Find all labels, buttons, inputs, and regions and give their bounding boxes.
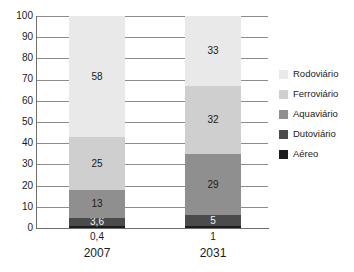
legend-item-aquaviario: Aquaviário <box>279 106 354 122</box>
bar-2031-segment-dutoviario: 5 <box>185 215 241 226</box>
bar-2007-label-dutoviario: 3,6 <box>90 217 104 227</box>
y-tick-20: 20 <box>3 181 33 191</box>
legend-label-rodoviario: Rodoviário <box>293 69 338 79</box>
plot-area: 3,6 13 25 58 5 29 <box>36 16 268 228</box>
bar-2007-segment-aquaviario: 13 <box>69 190 125 218</box>
x-category-label-2031: 2031 <box>178 247 248 260</box>
bar-2031-label-dutoviario: 5 <box>210 216 216 226</box>
x-category-label-2007: 2007 <box>62 247 132 260</box>
bar-2031: 5 29 32 33 <box>185 16 241 228</box>
stacked-bar-chart: 100 90 80 70 60 50 40 30 20 10 0 3,6 <box>0 0 354 272</box>
bar-2031-label-aquaviario: 29 <box>207 180 218 190</box>
y-tick-10: 10 <box>3 202 33 212</box>
y-tick-70: 70 <box>3 74 33 84</box>
legend-swatch-icon-ferroviario <box>279 90 288 99</box>
legend-swatch-icon-aquaviario <box>279 110 288 119</box>
bar-2007-segment-ferroviario: 25 <box>69 137 125 190</box>
bar-2007-segment-rodoviario: 58 <box>69 16 125 137</box>
legend-item-dutoviario: Dutoviário <box>279 126 354 142</box>
legend-swatch-icon-aereo <box>279 150 288 159</box>
legend-swatch-icon-rodoviario <box>279 70 288 79</box>
y-tick-60: 60 <box>3 96 33 106</box>
y-tick-0: 0 <box>3 223 33 233</box>
legend-item-rodoviario: Rodoviário <box>279 66 354 82</box>
legend-label-dutoviario: Dutoviário <box>293 129 336 139</box>
bar-2007-label-aereo: 0,4 <box>69 231 125 242</box>
bar-2031-label-aereo: 1 <box>185 231 241 242</box>
legend: Rodoviário Ferroviário Aquaviário Dutovi… <box>279 66 354 166</box>
y-tick-40: 40 <box>3 138 33 148</box>
legend-swatch-icon-dutoviario <box>279 130 288 139</box>
legend-label-aereo: Aéreo <box>293 149 318 159</box>
bar-2031-segment-rodoviario: 33 <box>185 16 241 86</box>
y-tick-80: 80 <box>3 53 33 63</box>
bar-2031-label-rodoviario: 33 <box>207 46 218 56</box>
y-tick-50: 50 <box>3 117 33 127</box>
legend-label-ferroviario: Ferroviário <box>293 89 338 99</box>
y-tick-90: 90 <box>3 32 33 42</box>
bar-2007: 3,6 13 25 58 <box>69 16 125 228</box>
legend-item-aereo: Aéreo <box>279 146 354 162</box>
x-axis-line <box>36 228 269 229</box>
y-axis-tick-labels: 100 90 80 70 60 50 40 30 20 10 0 <box>0 0 33 272</box>
bar-2007-label-ferroviario: 25 <box>91 159 102 169</box>
y-tick-100: 100 <box>3 11 33 21</box>
legend-label-aquaviario: Aquaviário <box>293 109 338 119</box>
bar-2007-label-aquaviario: 13 <box>91 199 102 209</box>
legend-item-ferroviario: Ferroviário <box>279 86 354 102</box>
bar-2007-label-rodoviario: 58 <box>91 72 102 82</box>
bar-2007-segment-dutoviario: 3,6 <box>69 218 125 226</box>
y-axis-line <box>36 16 37 229</box>
bar-2031-segment-ferroviario: 32 <box>185 86 241 154</box>
bar-2031-label-ferroviario: 32 <box>207 115 218 125</box>
bar-2031-segment-aquaviario: 29 <box>185 154 241 215</box>
y-tick-30: 30 <box>3 159 33 169</box>
